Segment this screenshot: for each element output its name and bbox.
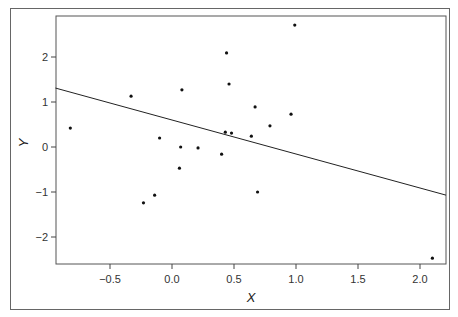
x-tick-label: 0.0 <box>164 273 179 285</box>
y-tick-label: −1 <box>35 186 48 198</box>
data-point <box>256 190 259 193</box>
data-point <box>69 127 72 130</box>
data-point <box>220 153 223 156</box>
y-tick-label: 1 <box>42 96 48 108</box>
data-point <box>129 95 132 98</box>
data-point <box>227 82 230 85</box>
x-tick-label: 1.5 <box>350 273 365 285</box>
x-tick-label: 1.0 <box>288 273 303 285</box>
data-point <box>142 201 145 204</box>
data-point <box>268 124 271 127</box>
data-point <box>179 145 182 148</box>
x-tick-label: 0.5 <box>226 273 241 285</box>
data-point <box>253 105 256 108</box>
x-tick-label: −0.5 <box>99 273 121 285</box>
data-point <box>224 131 227 134</box>
data-point <box>225 51 228 54</box>
y-tick-label: 2 <box>42 51 48 63</box>
y-tick-label: −2 <box>35 231 48 243</box>
data-point <box>178 167 181 170</box>
y-axis: −2−1012 <box>35 51 56 243</box>
data-point <box>158 136 161 139</box>
data-point <box>289 113 292 116</box>
x-axis: −0.50.00.51.01.52.0 <box>99 264 428 285</box>
y-tick-label: 0 <box>42 141 48 153</box>
y-axis-title: Y <box>16 137 31 147</box>
data-point <box>250 135 253 138</box>
data-point <box>180 88 183 91</box>
scatter-chart: −0.50.00.51.01.52.0 −2−1012 X Y <box>0 0 458 317</box>
data-point <box>431 257 434 260</box>
x-axis-title: X <box>246 290 257 305</box>
data-point <box>293 23 296 26</box>
data-point <box>153 194 156 197</box>
data-point <box>196 146 199 149</box>
plot-area <box>56 16 446 264</box>
x-tick-label: 2.0 <box>412 273 427 285</box>
data-point <box>230 131 233 134</box>
